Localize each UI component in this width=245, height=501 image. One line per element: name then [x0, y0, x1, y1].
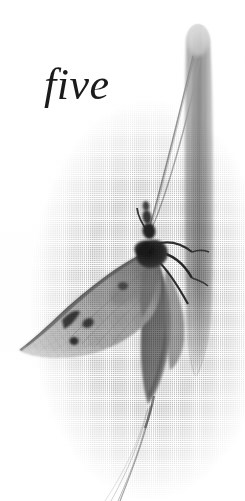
grass-blade: [180, 20, 220, 380]
moth-tail-filaments: [105, 396, 154, 501]
book-page: five: [0, 0, 245, 501]
chapter-heading: five: [44, 52, 174, 118]
